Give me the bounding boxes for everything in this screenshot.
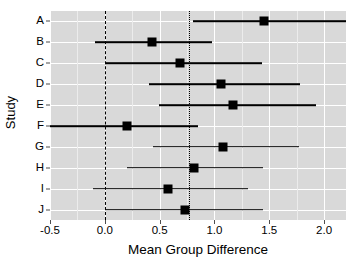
forest-plot: Study ABCDEFGHIJ -0.50.00.51.01.52.0 Mea… [0,0,358,265]
x-axis-title: Mean Group Difference [50,242,346,257]
y-axis-tick-labels: ABCDEFGHIJ [22,0,50,225]
point-estimate-marker [217,80,226,89]
y-axis-title-text: Study [4,96,19,129]
gridline-vertical-minor [77,11,78,220]
x-axis-tick-label: 0.0 [97,225,113,237]
point-estimate-marker [164,184,173,193]
gridline-vertical [50,11,51,220]
x-axis-tick-label: -0.5 [40,225,60,237]
point-estimate-marker [122,121,131,130]
y-axis-tick-label: F [37,120,44,132]
point-estimate-marker [229,101,238,110]
point-estimate-marker [259,17,268,26]
plot-panel [50,11,346,220]
y-axis-tick-label: C [36,58,44,70]
y-axis-tick-label: A [36,16,44,28]
x-axis-tick-label: 0.5 [152,225,168,237]
gridline-vertical-minor [297,11,298,220]
y-axis-title: Study [0,0,22,225]
gridline-vertical [324,11,325,220]
gridline-vertical [269,11,270,220]
point-estimate-marker [180,205,189,214]
y-axis-tick-label: G [35,141,44,153]
x-axis-tick-label: 1.5 [261,225,277,237]
point-estimate-marker [176,59,185,68]
x-axis-tick-label: 1.0 [206,225,222,237]
y-axis-tick-label: I [41,183,44,195]
confidence-interval-line [193,21,346,23]
y-axis-tick-label: D [36,78,44,90]
point-estimate-marker [147,38,156,47]
y-axis-tick-label: E [36,99,44,111]
point-estimate-marker [219,142,228,151]
point-estimate-marker [189,163,198,172]
y-axis-tick-label: J [38,204,44,216]
x-axis-tick-labels: -0.50.00.51.01.52.0 [50,225,346,241]
y-axis-tick-label: B [36,37,44,49]
x-axis-tick-label: 2.0 [316,225,332,237]
y-axis-tick-label: H [36,162,44,174]
